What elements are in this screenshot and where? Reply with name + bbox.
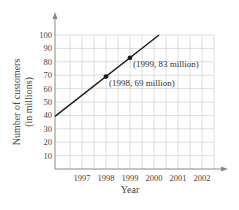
- line-chart: 102030405060708090100 199719981999200020…: [0, 0, 239, 210]
- x-axis-arrow-icon: [221, 167, 228, 172]
- y-axis-title-line-1: Number of customers: [11, 59, 22, 146]
- y-axis-title: Number of customers (in millions): [11, 59, 35, 146]
- y-tick-label: 50: [44, 97, 53, 107]
- x-tick-label: 2002: [194, 173, 211, 183]
- x-tick-label: 1999: [122, 173, 139, 183]
- y-tick-label: 20: [44, 137, 53, 147]
- x-tick-label: 1997: [74, 173, 91, 183]
- data-point-marker: [128, 55, 133, 60]
- x-tick-label: 1998: [98, 173, 115, 183]
- data-point-label: (1999, 83 million): [133, 59, 199, 69]
- grid: [55, 35, 214, 169]
- data-point-marker: [104, 74, 109, 79]
- x-tick-label: 2000: [146, 173, 163, 183]
- y-axis-arrow-icon: [53, 12, 58, 19]
- data-point-label: (1998, 69 million): [109, 78, 175, 88]
- y-axis-title-line-2: (in millions): [23, 77, 35, 127]
- y-tick-label: 80: [44, 57, 53, 67]
- y-tick-label: 10: [44, 151, 53, 161]
- x-tick-labels: 199719981999200020012002: [74, 173, 211, 183]
- y-tick-label: 30: [44, 124, 53, 134]
- y-tick-label: 40: [44, 110, 53, 120]
- y-tick-labels: 102030405060708090100: [39, 30, 52, 161]
- y-tick-label: 60: [44, 84, 53, 94]
- y-tick-label: 100: [39, 30, 52, 40]
- y-tick-label: 90: [44, 43, 53, 53]
- y-tick-label: 70: [44, 70, 53, 80]
- x-tick-label: 2001: [170, 173, 187, 183]
- x-axis-title: Year: [121, 184, 140, 195]
